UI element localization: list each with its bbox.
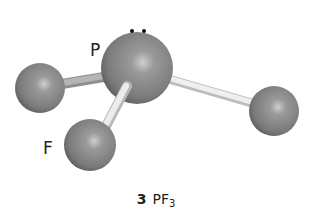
pf3-molecule-figure: P F 3PF3 — [0, 0, 312, 216]
bond-p-f-right — [165, 77, 262, 106]
atom-label-f: F — [43, 138, 53, 158]
fluorine-atom-right — [249, 86, 299, 136]
phosphorus-atom — [101, 32, 173, 104]
atom-label-p: P — [90, 40, 100, 60]
caption-number: 3 — [137, 191, 147, 207]
formula-main: PF — [152, 191, 169, 207]
fluorine-atom-front — [64, 119, 116, 171]
molecule-diagram — [0, 0, 312, 216]
fluorine-atom-left — [15, 63, 65, 113]
formula-subscript: 3 — [169, 198, 175, 209]
figure-caption: 3PF3 — [0, 191, 312, 209]
caption-formula: PF3 — [152, 191, 175, 207]
